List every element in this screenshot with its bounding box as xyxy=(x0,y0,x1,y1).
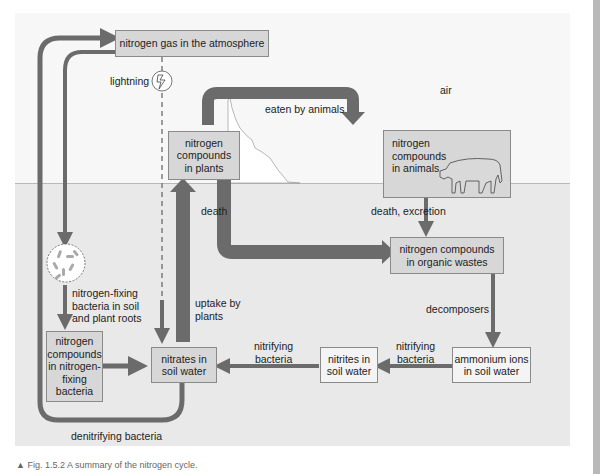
uptake-label: uptake by plants xyxy=(195,297,241,322)
nitrifying-bacteria-label-1: nitrifying bacteria xyxy=(254,340,293,365)
nitrites-node: nitrites in soil water xyxy=(320,347,378,383)
organic-wastes-node: nitrogen compounds in organic wastes xyxy=(390,237,504,274)
plants-label: nitrogen compounds in plants xyxy=(177,137,231,175)
death-arrow xyxy=(224,180,384,252)
plants-node: nitrogen compounds in plants xyxy=(168,131,240,180)
uptake-arrowhead xyxy=(170,178,196,192)
nitrifying-bacteria-label-2: nitrifying bacteria xyxy=(396,340,435,365)
organic-wastes-label: nitrogen compounds in organic wastes xyxy=(399,243,494,268)
nitrates-node: nitrates in soil water xyxy=(151,347,217,383)
lightning-bolt-icon xyxy=(152,71,172,91)
lightning-label: lightning xyxy=(110,75,149,88)
nitrates-label: nitrates in soil water xyxy=(161,353,207,378)
death-excretion-label: death, excretion xyxy=(371,205,446,218)
atmosphere-label: nitrogen gas in the atmosphere xyxy=(120,37,265,50)
fixation-arrow xyxy=(65,52,115,240)
fixing-bacteria-compounds-node: nitrogen compounds in nitrogen- fixing b… xyxy=(46,331,103,402)
bacteria-circle-icon xyxy=(47,244,85,282)
decomposers-label: decomposers xyxy=(426,303,489,316)
death-label: death xyxy=(201,205,227,218)
eaten-by-animals-label: eaten by animals xyxy=(265,103,344,116)
air-label: air xyxy=(440,84,452,97)
nitrogen-fixing-bacteria-label: nitrogen-fixing bacteria in soil and pla… xyxy=(72,287,141,325)
ammonium-label: ammonium ions in soil water xyxy=(454,353,528,378)
nitrogen-cycle-arrows xyxy=(0,0,600,474)
denitrifying-bacteria-label: denitrifying bacteria xyxy=(71,430,162,443)
animals-node: nitrogen compounds in animals xyxy=(383,130,511,198)
nitrites-label: nitrites in soil water xyxy=(327,353,371,378)
atmosphere-node: nitrogen gas in the atmosphere xyxy=(115,30,269,57)
fixing-bacteria-compounds-label: nitrogen compounds in nitrogen- fixing b… xyxy=(47,335,101,398)
figure-caption: ▲ Fig. 1.5.2 A summary of the nitrogen c… xyxy=(16,460,198,470)
cow-icon xyxy=(436,149,508,195)
ammonium-node: ammonium ions in soil water xyxy=(452,347,531,383)
